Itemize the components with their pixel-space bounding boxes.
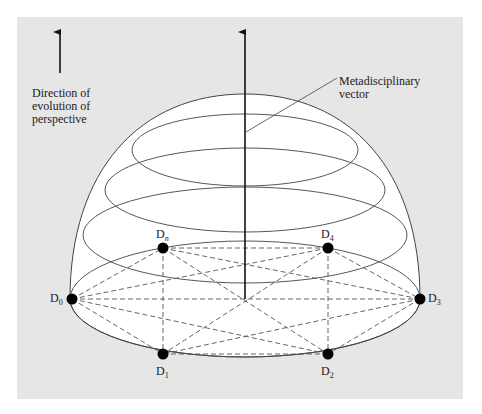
node-D1 <box>158 349 169 360</box>
label-D3: D3 <box>428 291 441 307</box>
label-D2: D2 <box>321 364 334 380</box>
label-Dn: Dn <box>156 227 169 243</box>
label-D4: D4 <box>321 227 334 243</box>
label-D0: D0 <box>50 291 63 307</box>
direction-label: Direction of evolution of perspective <box>32 87 90 126</box>
node-Dn <box>158 243 169 254</box>
vector-label-line-2: vector <box>339 88 420 101</box>
node-D3 <box>415 294 426 305</box>
node-D2 <box>323 349 334 360</box>
node-D0 <box>67 294 78 305</box>
vector-label: Metadisciplinary vector <box>339 75 420 101</box>
direction-label-line-3: perspective <box>32 113 90 126</box>
label-D1: D1 <box>156 364 169 380</box>
node-D4 <box>323 243 334 254</box>
hemisphere-diagram <box>0 0 482 414</box>
